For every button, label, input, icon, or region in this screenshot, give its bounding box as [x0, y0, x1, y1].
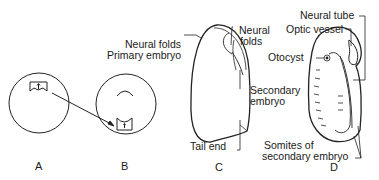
- label-neural-tube: Neural tube: [300, 10, 354, 21]
- panel-label-a: A: [35, 160, 42, 172]
- label-optic-vessel: Optic vessel: [286, 24, 343, 35]
- panel-label-c: C: [215, 161, 223, 173]
- panel-a-embryo: [9, 73, 69, 133]
- panel-label-b: B: [121, 160, 128, 172]
- label-neural-folds-c-line2: folds: [240, 36, 262, 47]
- panel-label-d: D: [330, 161, 338, 173]
- label-otocyst: Otocyst: [268, 52, 304, 63]
- label-primary-embryo: Primary embryo: [107, 50, 181, 61]
- panel-d-embryo: [308, 27, 361, 141]
- panel-c-leaders: [184, 27, 240, 150]
- label-tail-end: Tail end: [190, 141, 226, 152]
- panel-b-embryo: [96, 74, 156, 134]
- label-secondary-embryo-c-line2: embryo: [250, 96, 285, 107]
- transplant-arrow: [52, 93, 114, 126]
